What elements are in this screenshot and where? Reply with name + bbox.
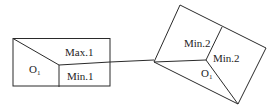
right-left-divider [154, 60, 206, 62]
right-quadrilateral-outline [154, 5, 266, 104]
right-min2-upper-label: Min.2 [184, 37, 211, 49]
left-max-label: Max.1 [65, 46, 93, 58]
left-region: O1 Max.1 Min.1 [13, 39, 110, 88]
right-region: Min.2 Min.2 O1 [154, 5, 266, 104]
left-horizontal-divider [59, 62, 110, 65]
connector-line [110, 60, 154, 62]
diagram: O1 Max.1 Min.1 Min.2 Min.2 O1 [0, 0, 277, 111]
right-center-label: O1 [201, 67, 213, 81]
right-bottom-divider [206, 60, 238, 104]
left-rectangle-outline [13, 39, 110, 87]
left-min-label: Min.1 [67, 70, 94, 82]
right-min2-right-label: Min.2 [213, 52, 240, 64]
left-diagonal-divider [13, 39, 59, 66]
left-center-label: O1 [29, 63, 41, 77]
